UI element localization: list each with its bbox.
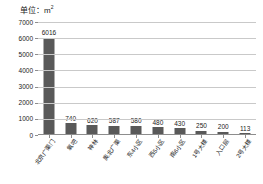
y-tick-mark	[35, 22, 38, 23]
x-label: 南6小区	[169, 138, 187, 159]
x-label-slot: 东4小区	[125, 136, 147, 182]
x-label: 东4小区	[126, 138, 144, 159]
x-label: 北京广渠门	[34, 138, 57, 167]
y-tick-label: 2000	[2, 99, 33, 106]
bar-value-label: 430	[174, 120, 185, 127]
y-tick-mark	[35, 38, 38, 39]
x-label: 2号大楼	[235, 138, 253, 159]
bar-value-label: 620	[87, 117, 98, 124]
y-tick-label: 3000	[2, 83, 33, 90]
unit-label-text: 单位：	[20, 6, 44, 15]
x-label-slot: 西5小区	[147, 136, 169, 182]
bar-value-label: 200	[218, 123, 229, 130]
x-label-slot: 1号大楼	[191, 136, 213, 182]
x-label-slot: 神林	[82, 136, 104, 182]
x-label: 入口层	[215, 138, 231, 157]
bar-value-label: 6016	[42, 29, 56, 36]
y-tick-label: 4000	[2, 67, 33, 74]
y-tick-label: 7000	[2, 19, 33, 26]
y-tick-label: 6000	[2, 35, 33, 42]
y-tick-mark	[35, 119, 38, 120]
x-label-slot: 北京广渠门	[38, 136, 60, 182]
gridline	[38, 119, 256, 120]
y-tick-label: 1000	[2, 115, 33, 122]
x-label: 西5小区	[148, 138, 166, 159]
gridline	[38, 38, 256, 39]
gridline	[38, 103, 256, 104]
bar-chart: 单位：m2 6016740620587580480430250200113 01…	[0, 0, 263, 184]
x-label: 神林	[88, 138, 101, 152]
x-label: 奥北广渠	[103, 138, 122, 162]
bar-value-label: 113	[240, 125, 250, 132]
x-axis-labels: 北京广渠门氧吧神林奥北广渠东4小区西5小区南6小区1号大楼入口层2号大楼	[38, 136, 256, 182]
bar-value-label: 250	[196, 122, 207, 129]
gridline	[38, 87, 256, 88]
gridline	[38, 70, 256, 71]
unit-label-superscript: 2	[51, 4, 54, 10]
y-tick-mark	[35, 70, 38, 71]
x-label-slot: 氧吧	[60, 136, 82, 182]
x-axis-line	[38, 134, 256, 135]
unit-label: 单位：m2	[20, 2, 53, 16]
x-label-slot: 南6小区	[169, 136, 191, 182]
x-label-slot: 入口层	[212, 136, 234, 182]
y-tick-label: 0	[2, 132, 33, 139]
x-label: 1号大楼	[191, 138, 209, 159]
y-tick-mark	[35, 103, 38, 104]
plot-area: 6016740620587580480430250200113	[38, 22, 256, 135]
gridline	[38, 22, 256, 23]
unit-label-value: m	[44, 6, 51, 15]
y-tick-mark	[35, 87, 38, 88]
x-label-slot: 2号大楼	[234, 136, 256, 182]
y-tick-label: 5000	[2, 51, 33, 58]
gridline	[38, 54, 256, 55]
x-label: 氧吧	[66, 138, 79, 152]
x-label-slot: 奥北广渠	[103, 136, 125, 182]
y-tick-mark	[35, 54, 38, 55]
